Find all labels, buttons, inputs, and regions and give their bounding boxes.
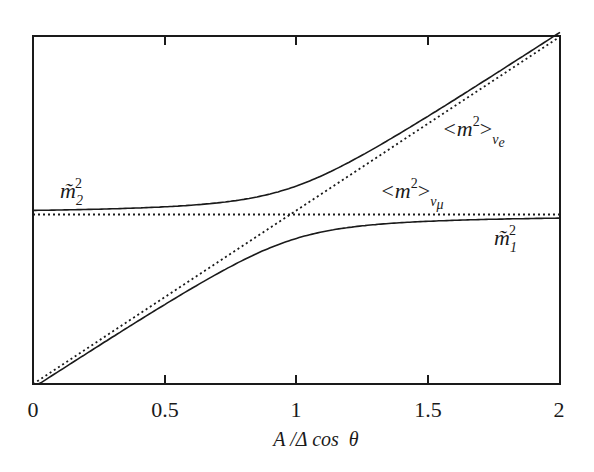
nu-e-close: >: [480, 116, 492, 141]
nu-mu-open: <m: [380, 178, 411, 203]
x-axis-title-text: A /Δ cos θ: [271, 428, 358, 450]
x-tick-0: 0: [28, 397, 39, 422]
x-tick-labels: 0 0.5 1 1.5 2: [28, 397, 565, 422]
m1-subscript: 1: [510, 240, 517, 255]
x-axis-title: A /Δ cos θ: [271, 428, 358, 450]
nu-e-label: <m2>νe: [442, 114, 505, 150]
m2-subscript: 2: [76, 193, 83, 208]
m1-superscript: 2: [509, 223, 516, 238]
m2-tilde-symbol: m̃: [60, 178, 76, 203]
nu-mu-label: <m2>νμ: [380, 176, 443, 212]
nu-e-flavor: e: [498, 135, 504, 150]
x-tick-1.5: 1.5: [414, 397, 442, 422]
x-tick-0.5: 0.5: [151, 397, 179, 422]
nu-e-open: <m: [442, 116, 473, 141]
nu-mu-close: >: [418, 178, 430, 203]
m1-tilde-symbol: m̃: [494, 225, 510, 250]
nu-mu-superscript: 2: [411, 176, 418, 191]
m2-tilde-label: m̃22: [60, 176, 83, 208]
x-tick-2: 2: [554, 397, 565, 422]
x-tick-1: 1: [291, 397, 302, 422]
m2-superscript: 2: [75, 176, 82, 191]
m1-tilde-label: m̃12: [494, 223, 517, 255]
nu-mu-flavor: μ: [435, 197, 443, 212]
chart: 0 0.5 1 1.5 2 A /Δ cos θ m̃22 <m2>νe <m2…: [0, 0, 594, 472]
m1-tilde-curve: [33, 218, 560, 384]
nu-e-superscript: 2: [473, 114, 480, 129]
nu-e-diagonal-line: [33, 38, 558, 384]
